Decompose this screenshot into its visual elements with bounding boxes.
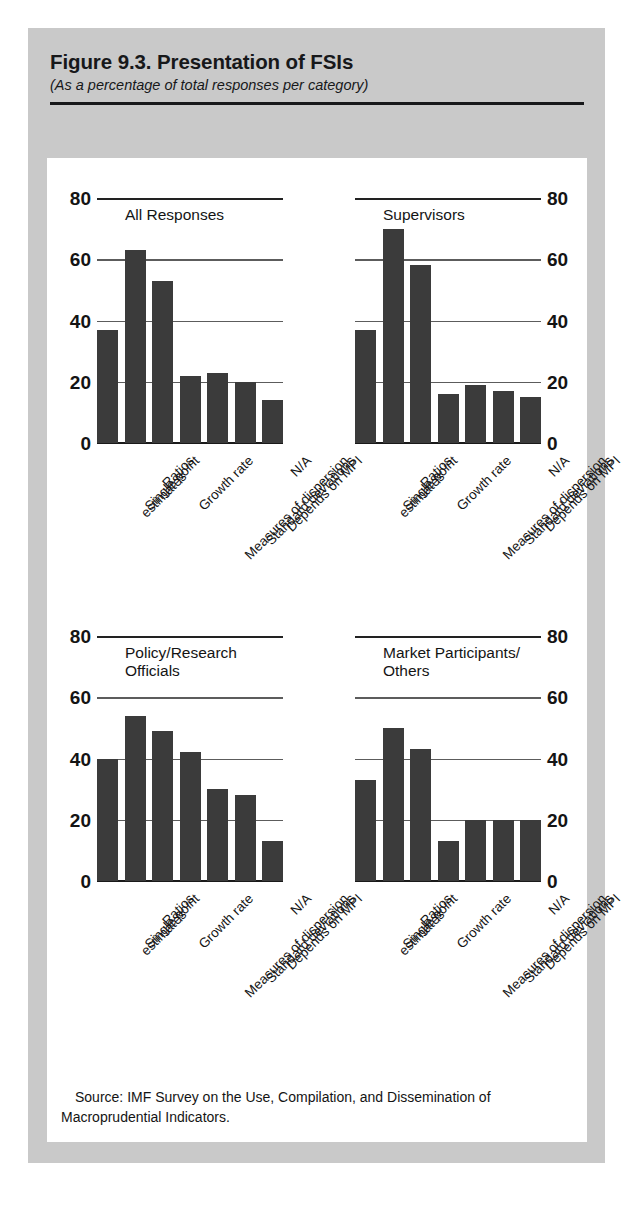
- bar[interactable]: [465, 385, 486, 443]
- y-axis-tick-60: 60: [547, 688, 581, 707]
- bar-group: [97, 198, 283, 443]
- bar[interactable]: [438, 394, 459, 443]
- bar-slot: [152, 198, 173, 443]
- x-axis-label: N/A: [287, 891, 314, 918]
- bar-slot: [235, 636, 256, 881]
- x-axis-label: N/A: [545, 453, 572, 480]
- bar-slot: [125, 198, 146, 443]
- x-axis-label: Growth rate: [453, 453, 513, 513]
- bar-slot: [207, 198, 228, 443]
- y-axis-tick-60: 60: [547, 250, 581, 269]
- y-axis-tick-20: 20: [57, 373, 91, 392]
- y-axis-tick-20: 20: [57, 811, 91, 830]
- bar[interactable]: [152, 281, 173, 443]
- y-axis-tick-60: 60: [57, 688, 91, 707]
- panel-row-top: 806040200All ResponsesSingle pointestima…: [47, 172, 587, 572]
- source-note: Source: IMF Survey on the Use, Compilati…: [61, 1088, 569, 1128]
- bar-slot: [262, 198, 283, 443]
- bar[interactable]: [355, 330, 376, 443]
- chart-panel-market-participants-others: 806040200Market Participants/ OthersSing…: [325, 610, 583, 1010]
- y-axis-tick-40: 40: [57, 750, 91, 769]
- plot-area: [97, 198, 283, 443]
- bar-slot: [180, 198, 201, 443]
- bar-slot: [383, 198, 404, 443]
- bar[interactable]: [97, 330, 118, 443]
- x-axis-label: Growth rate: [453, 891, 513, 951]
- bar[interactable]: [355, 780, 376, 881]
- panel-title: All Responses: [125, 206, 224, 224]
- chart-card: 806040200All ResponsesSingle pointestima…: [47, 158, 587, 1142]
- bar[interactable]: [383, 229, 404, 443]
- page-title: Figure 9.3. Presentation of FSIs: [50, 50, 584, 74]
- y-axis-tick-0: 0: [57, 872, 91, 891]
- bar-slot: [520, 636, 541, 881]
- bar[interactable]: [410, 265, 431, 443]
- bar[interactable]: [383, 728, 404, 881]
- panel-title: Market Participants/ Others: [383, 644, 520, 680]
- bar-slot: [493, 198, 514, 443]
- bar[interactable]: [520, 820, 541, 881]
- bar[interactable]: [125, 716, 146, 881]
- figure-header: Figure 9.3. Presentation of FSIs (As a p…: [50, 50, 584, 105]
- bar-slot: [438, 198, 459, 443]
- bar[interactable]: [262, 400, 283, 443]
- bar-slot: [262, 636, 283, 881]
- bar[interactable]: [438, 841, 459, 881]
- bar[interactable]: [152, 731, 173, 881]
- chart-panel-supervisors: 806040200SupervisorsSingle pointestimate…: [325, 172, 583, 572]
- x-axis-labels: Single pointestimatesRatiosGrowth rateMe…: [97, 885, 347, 1005]
- figure-container: Figure 9.3. Presentation of FSIs (As a p…: [28, 28, 605, 1163]
- y-axis-tick-80: 80: [57, 627, 91, 646]
- y-axis-tick-40: 40: [547, 312, 581, 331]
- chart-panel-policy-research-officials: 806040200Policy/Research OfficialsSingle…: [55, 610, 313, 1010]
- bar-slot: [97, 636, 118, 881]
- panel-row-bottom: 806040200Policy/Research OfficialsSingle…: [47, 610, 587, 1010]
- plot-area: [355, 198, 541, 443]
- bar[interactable]: [97, 759, 118, 882]
- bar[interactable]: [235, 382, 256, 443]
- y-axis-tick-20: 20: [547, 373, 581, 392]
- bar[interactable]: [207, 789, 228, 881]
- chart-panel-all-responses: 806040200All ResponsesSingle pointestima…: [55, 172, 313, 572]
- bar-slot: [520, 198, 541, 443]
- y-axis-tick-0: 0: [57, 434, 91, 453]
- y-axis-tick-80: 80: [57, 189, 91, 208]
- y-axis-tick-40: 40: [57, 312, 91, 331]
- panel-title: Supervisors: [383, 206, 465, 224]
- bar[interactable]: [493, 391, 514, 443]
- bar[interactable]: [180, 376, 201, 443]
- bar-group: [355, 198, 541, 443]
- y-axis-tick-40: 40: [547, 750, 581, 769]
- bar[interactable]: [410, 749, 431, 881]
- bar-slot: [235, 198, 256, 443]
- figure-subtitle: (As a percentage of total responses per …: [50, 77, 584, 93]
- x-axis-labels: Single pointestimatesRatiosGrowth rateMe…: [355, 447, 605, 567]
- y-axis-tick-60: 60: [57, 250, 91, 269]
- bar-slot: [355, 636, 376, 881]
- panel-title: Policy/Research Officials: [125, 644, 237, 680]
- bar[interactable]: [520, 397, 541, 443]
- y-axis-tick-80: 80: [547, 627, 581, 646]
- bar[interactable]: [465, 820, 486, 881]
- x-axis-label: Growth rate: [195, 453, 255, 513]
- bar-slot: [355, 198, 376, 443]
- y-axis-tick-80: 80: [547, 189, 581, 208]
- bar[interactable]: [262, 841, 283, 881]
- bar-slot: [410, 198, 431, 443]
- x-axis-label: N/A: [287, 453, 314, 480]
- title-divider: [50, 102, 584, 105]
- bar-slot: [97, 198, 118, 443]
- bar[interactable]: [235, 795, 256, 881]
- bar-slot: [465, 198, 486, 443]
- bar[interactable]: [207, 373, 228, 443]
- bar[interactable]: [180, 752, 201, 881]
- x-axis-labels: Single pointestimatesRatiosGrowth rateMe…: [97, 447, 347, 567]
- x-axis-labels: Single pointestimatesRatiosGrowth rateMe…: [355, 885, 605, 1005]
- y-axis-tick-20: 20: [547, 811, 581, 830]
- x-axis-label: N/A: [545, 891, 572, 918]
- bar[interactable]: [125, 250, 146, 443]
- bar[interactable]: [493, 820, 514, 881]
- x-axis-label: Growth rate: [195, 891, 255, 951]
